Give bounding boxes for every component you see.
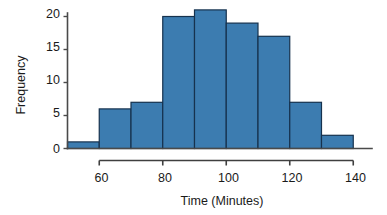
y-tick-label-5: 5 [53, 106, 60, 120]
histogram-figure: 20 15 10 5 0 60 80 100 120 140 Frequency… [0, 0, 387, 215]
x-tick-label-140: 140 [345, 171, 366, 185]
histogram-bar [163, 17, 195, 149]
y-axis-title: Frequency [14, 55, 28, 115]
y-tick-label-15: 15 [46, 40, 60, 54]
x-tick-label-120: 120 [282, 171, 303, 185]
histogram-bar [68, 142, 100, 149]
y-tick-label-20: 20 [46, 7, 60, 21]
histogram-bar [258, 36, 290, 148]
x-axis-title: Time (Minutes) [181, 194, 264, 208]
x-tick-label-60: 60 [95, 171, 109, 185]
histogram-bar [290, 102, 322, 148]
x-tick-label-80: 80 [158, 171, 172, 185]
x-tick-label-100: 100 [218, 171, 239, 185]
y-tick-label-10: 10 [46, 73, 60, 87]
histogram-bar [99, 109, 131, 149]
histogram-bar [226, 23, 258, 148]
histogram-bar [322, 135, 354, 148]
histogram-bar [131, 102, 163, 148]
histogram-bar [195, 10, 227, 149]
y-tick-label-0: 0 [53, 142, 60, 156]
histogram-canvas: 20 15 10 5 0 60 80 100 120 140 Frequency… [0, 0, 387, 215]
